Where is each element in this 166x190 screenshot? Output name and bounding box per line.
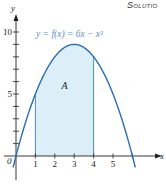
origin-label: 0 [7,156,12,166]
region-fill [35,44,93,156]
y-axis-label: y [10,3,15,13]
y-axis-arrow-icon [14,14,19,21]
function-label: y = f(x) = 6x − x² [35,29,103,40]
area-under-curve-chart: 123450510xyy = f(x) = 6x − x²A [0,0,166,190]
x-tick-label: 3 [72,159,77,169]
x-tick-label: 5 [111,159,116,169]
x-tick-label: 1 [33,159,38,169]
region-label: A [61,80,69,91]
y-tick-label: 5 [8,89,13,99]
shaded-region-a [35,44,93,156]
x-axis-label: x [159,151,164,161]
x-tick-label: 4 [91,159,96,169]
x-tick-label: 2 [53,159,58,169]
y-tick-label: 10 [3,27,13,37]
